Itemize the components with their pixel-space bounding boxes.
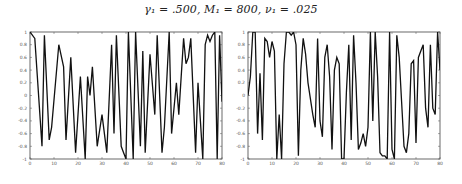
y-tick-label: -0.4	[18, 118, 27, 123]
x-tick-label: 20	[75, 161, 81, 166]
y-tick-label: -1	[241, 157, 246, 162]
y-tick-label: 1	[242, 30, 245, 35]
x-tick-label: 70	[413, 161, 419, 166]
data-series-line	[30, 32, 222, 159]
x-tick-label: 70	[195, 161, 201, 166]
x-tick-label: 80	[219, 161, 225, 166]
y-tick-label: 1	[24, 30, 27, 35]
y-tick-label: -1	[23, 157, 28, 162]
y-tick-label: -0.6	[18, 131, 27, 136]
y-tick-label: -0.8	[236, 144, 245, 149]
y-tick-label: 0.8	[20, 42, 27, 47]
x-tick-label: 20	[293, 161, 299, 166]
y-tick-label: -0.2	[236, 106, 245, 111]
y-tick-label: 0	[24, 93, 27, 98]
y-tick-label: 0.6	[20, 55, 27, 60]
x-tick-label: 30	[317, 161, 323, 166]
x-tick-label: 40	[341, 161, 347, 166]
x-tick-label: 10	[269, 161, 275, 166]
y-tick-label: -0.6	[236, 131, 245, 136]
x-tick-label: 60	[171, 161, 177, 166]
y-tick-label: 0.2	[238, 80, 245, 85]
x-tick-label: 10	[51, 161, 57, 166]
y-tick-label: -0.4	[236, 118, 245, 123]
y-tick-label: 0.4	[238, 68, 245, 73]
chart-canvas: 01020304050607080-1-0.8-0.6-0.4-0.200.20…	[0, 0, 462, 184]
x-tick-label: 50	[365, 161, 371, 166]
left-plot-panel: 01020304050607080-1-0.8-0.6-0.4-0.200.20…	[18, 30, 225, 167]
x-tick-label: 60	[389, 161, 395, 166]
x-tick-label: 50	[147, 161, 153, 166]
x-tick-label: 40	[123, 161, 129, 166]
data-series-line	[248, 32, 440, 159]
y-tick-label: 0.4	[20, 68, 27, 73]
x-tick-label: 0	[247, 161, 250, 166]
y-tick-label: 0.8	[238, 42, 245, 47]
x-tick-label: 80	[437, 161, 443, 166]
y-tick-label: 0.2	[20, 80, 27, 85]
y-tick-label: 0	[242, 93, 245, 98]
y-tick-label: 0.6	[238, 55, 245, 60]
x-tick-label: 30	[99, 161, 105, 166]
y-tick-label: -0.2	[18, 106, 27, 111]
right-plot-panel: 01020304050607080-1-0.8-0.6-0.4-0.200.20…	[236, 30, 443, 167]
y-tick-label: -0.8	[18, 144, 27, 149]
x-tick-label: 0	[29, 161, 32, 166]
